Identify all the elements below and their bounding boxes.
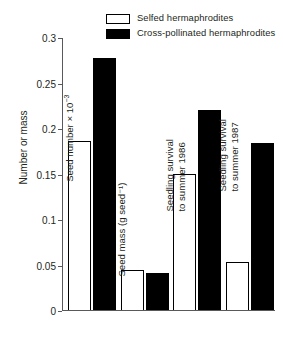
group-label-survival-1987-line2: to summer 1987 — [229, 122, 241, 191]
open-rectangle-swatch-icon — [106, 14, 130, 24]
y-tick-label: 0.3 — [42, 33, 56, 44]
legend-label-cross-pollinated: Cross-pollinated hermaphrodites — [137, 27, 275, 38]
group-label-survival-1986-line2: to summer 1986 — [176, 142, 188, 211]
legend-item-selfed: Selfed hermaphrodites — [106, 12, 281, 24]
group-label-survival-1987-line1: Seedling survival — [217, 119, 229, 192]
group-label-survival-1986-line1: Seedling survival — [164, 139, 176, 212]
y-tick-label: 0.1 — [42, 215, 56, 226]
bar-cross-seed-mass — [146, 273, 169, 310]
y-axis-label: Number or mass — [18, 83, 29, 213]
y-tick-label: 0.25 — [37, 78, 56, 89]
bar-cross-seed-number — [93, 58, 116, 310]
y-tick-label: 0.15 — [37, 169, 56, 180]
y-tick-label: 0 — [50, 306, 56, 317]
bar-selfed-survival-1987 — [226, 262, 249, 310]
y-tick-label: 0.05 — [37, 260, 56, 271]
bar-cross-survival-1987 — [251, 143, 274, 310]
y-tick-label: 0.2 — [42, 124, 56, 135]
x-axis-line — [62, 310, 275, 311]
group-label-seed-number: Seed number × 10−3 — [61, 95, 76, 182]
legend-label-selfed: Selfed hermaphrodites — [137, 12, 233, 23]
bar-chart-figure: Selfed hermaphrodites Cross-pollinated h… — [0, 0, 283, 338]
group-label-seed-mass: Seed mass (g seed⁻¹) — [116, 183, 128, 277]
